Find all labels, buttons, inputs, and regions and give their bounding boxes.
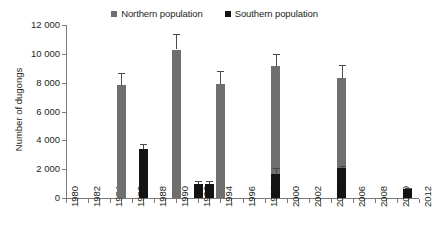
chart-legend: Northern population Southern population <box>0 8 429 19</box>
error-bar-cap <box>273 168 280 169</box>
bar-northern-1990 <box>172 50 181 198</box>
y-axis-tick <box>62 169 66 170</box>
bar-southern-1992 <box>194 184 203 198</box>
y-axis-tick <box>62 112 66 113</box>
x-axis-tick-label: 2000 <box>291 186 301 207</box>
legend-item-southern: Southern population <box>225 8 318 19</box>
bar-southern-2011 <box>403 189 412 198</box>
bar-northern-1994 <box>216 84 225 198</box>
x-axis-tick-label: 1990 <box>180 186 190 207</box>
x-axis-tick <box>220 199 221 203</box>
bar-southern-2005 <box>337 168 346 198</box>
error-bar-cap <box>339 166 346 167</box>
error-bar-cap <box>118 73 125 74</box>
x-axis-tick <box>66 199 67 203</box>
error-bar-cap <box>195 181 202 182</box>
y-axis-tick-label: 4 000 <box>14 135 60 145</box>
plot-area: 02 0004 0006 0008 00010 00012 0001980198… <box>66 25 419 198</box>
y-axis-tick-label: 6 000 <box>14 107 60 117</box>
x-axis-tick <box>353 199 354 203</box>
error-bar-cap <box>273 54 280 55</box>
error-bar-cap <box>206 181 213 182</box>
error-bar-stem <box>220 71 221 84</box>
x-axis-tick-label: 1994 <box>224 186 234 207</box>
x-axis-tick <box>154 199 155 203</box>
x-axis-tick <box>397 199 398 203</box>
y-axis-tick <box>62 25 66 26</box>
x-axis-tick <box>265 199 266 203</box>
y-axis-tick <box>62 54 66 55</box>
x-axis-tick <box>132 199 133 203</box>
error-bar-stem <box>176 34 177 50</box>
x-axis-tick-label: 2008 <box>379 186 389 207</box>
error-bar-cap <box>405 188 412 189</box>
x-axis-tick-label: 1982 <box>92 186 102 207</box>
x-axis-tick-label: 1980 <box>70 186 80 207</box>
x-axis-tick-label: 2006 <box>357 186 367 207</box>
error-bar-cap <box>339 65 346 66</box>
y-axis-tick <box>62 140 66 141</box>
legend-label-southern: Southern population <box>235 8 318 19</box>
x-axis-tick <box>176 199 177 203</box>
error-bar-cap <box>140 144 147 145</box>
error-bar-cap <box>217 71 224 72</box>
x-axis-tick-label: 1996 <box>247 186 257 207</box>
x-axis-tick <box>287 199 288 203</box>
error-bar-cap <box>173 34 180 35</box>
y-axis-tick-label: 10 000 <box>14 49 60 59</box>
x-axis-tick-label: 1988 <box>158 186 168 207</box>
x-axis-tick-label: 2012 <box>423 186 433 207</box>
bar-northern-1985 <box>117 85 126 198</box>
x-axis-tick <box>110 199 111 203</box>
y-axis-line <box>66 25 67 199</box>
x-axis-tick <box>243 199 244 203</box>
error-bar-stem <box>121 73 122 85</box>
x-axis-tick-label: 2002 <box>313 186 323 207</box>
square-marker-icon <box>225 11 231 17</box>
y-axis-tick-label: 8 000 <box>14 78 60 88</box>
bar-southern-1993 <box>205 184 214 198</box>
x-axis-tick <box>419 199 420 203</box>
x-axis-tick <box>198 199 199 203</box>
y-axis-tick-label: 0 <box>14 193 60 203</box>
bar-southern-1999 <box>271 174 280 199</box>
y-axis-tick-label: 2 000 <box>14 164 60 174</box>
error-bar-stem <box>342 65 343 79</box>
y-axis-tick <box>62 83 66 84</box>
x-axis-tick <box>88 199 89 203</box>
legend-item-northern: Northern population <box>111 8 203 19</box>
x-axis-tick <box>309 199 310 203</box>
error-bar-stem <box>276 54 277 66</box>
legend-label-northern: Northern population <box>121 8 203 19</box>
x-axis-tick <box>331 199 332 203</box>
bar-southern-1987 <box>139 149 148 198</box>
square-marker-icon <box>111 11 117 17</box>
y-axis-tick-label: 12 000 <box>14 20 60 30</box>
x-axis-tick <box>375 199 376 203</box>
